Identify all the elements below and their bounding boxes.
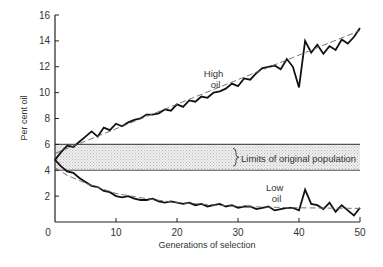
y-tick-label: 16 — [39, 10, 51, 21]
y-tick-label: 4 — [44, 165, 50, 176]
y-tick-label: 12 — [39, 61, 51, 72]
x-tick-label: 30 — [232, 227, 244, 238]
low-oil-trend-line — [55, 168, 360, 209]
high-oil-label: oil — [211, 79, 221, 90]
low-oil-label: Low — [266, 182, 284, 193]
y-tick-label: 8 — [44, 113, 50, 124]
high-oil-label: High — [204, 68, 224, 79]
band-label: Limits of original population — [241, 153, 356, 164]
x-tick-label: 20 — [171, 227, 183, 238]
y-tick-label: 14 — [39, 35, 51, 46]
x-tick-label: 40 — [293, 227, 305, 238]
y-tick-label: 6 — [44, 139, 50, 150]
chart: 24681012141601020304050 Per cent oil Gen… — [0, 0, 383, 267]
x-tick-label: 50 — [354, 227, 366, 238]
x-tick-label: 10 — [110, 227, 122, 238]
high-oil-line — [55, 28, 360, 160]
high-oil-trend-line — [55, 31, 360, 154]
y-axis-label: Per cent oil — [19, 95, 29, 140]
low-oil-label: oil — [272, 193, 282, 204]
x-tick-label: 0 — [45, 227, 51, 238]
x-axis-label: Generations of selection — [158, 240, 255, 250]
y-tick-label: 10 — [39, 87, 51, 98]
y-tick-label: 2 — [44, 191, 50, 202]
data-series — [55, 28, 360, 216]
